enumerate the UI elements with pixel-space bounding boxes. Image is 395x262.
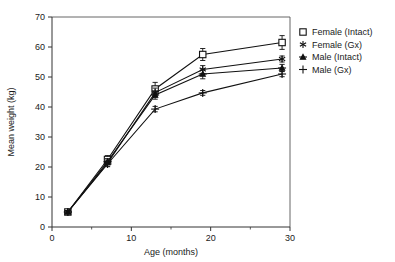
legend-item-label: Female (Gx)	[312, 40, 362, 50]
open-square-marker	[279, 39, 285, 45]
x-axis-title: Age (months)	[144, 247, 198, 257]
y-axis-tick-label: 20	[35, 162, 45, 172]
x-axis-tick-label: 20	[206, 233, 216, 243]
legend-item-label: Male (Intact)	[312, 52, 362, 62]
y-axis-tick-label: 0	[40, 222, 45, 232]
y-axis-tick-label: 70	[35, 12, 45, 22]
data-point-legend-0	[300, 29, 306, 35]
y-axis-tick-label: 10	[35, 192, 45, 202]
open-square-marker	[300, 29, 306, 35]
y-axis-tick-label: 60	[35, 42, 45, 52]
y-axis-tick-label: 30	[35, 132, 45, 142]
x-axis-tick-label: 30	[285, 233, 295, 243]
data-point-0-4	[279, 39, 285, 45]
data-point-0-3	[200, 51, 206, 57]
y-axis-tick-label: 40	[35, 102, 45, 112]
legend-item-label: Male (Gx)	[312, 65, 352, 75]
x-axis-tick-label: 10	[126, 233, 136, 243]
y-axis-title: Mean weight (kg)	[6, 87, 16, 156]
growth-curve-chart: 0102030 010203040506070 Female (Intact)F…	[0, 0, 395, 262]
open-square-marker	[200, 51, 206, 57]
x-axis-tick-label: 0	[49, 233, 54, 243]
legend-item-label: Female (Intact)	[312, 27, 373, 37]
chart-figure: 0102030 010203040506070 Female (Intact)F…	[0, 0, 395, 262]
y-axis-tick-label: 50	[35, 72, 45, 82]
